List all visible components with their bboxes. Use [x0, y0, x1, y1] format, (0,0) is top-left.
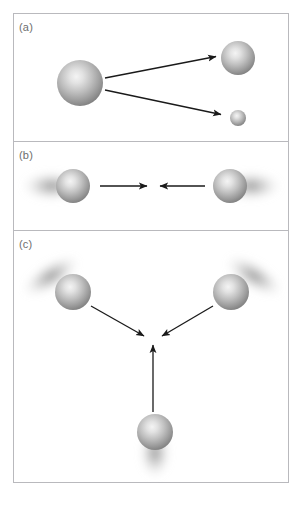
- arrow-to-medium-sphere: [105, 57, 216, 79]
- panel-b-content: [21, 169, 282, 203]
- sphere-left: [56, 169, 90, 203]
- panel-a-label: (a): [19, 22, 33, 33]
- figure-frame: [14, 14, 289, 483]
- panel-c-label: (c): [19, 239, 32, 250]
- medium-sphere-upper-right: [221, 41, 255, 75]
- small-sphere-lower-right: [230, 110, 246, 126]
- sphere-upper-right: [213, 274, 249, 310]
- figure-root: (a) (b) (c): [0, 0, 303, 507]
- sphere-bottom: [137, 414, 173, 450]
- panel-a-content: [57, 41, 255, 126]
- arrow-upper-left-to-center: [91, 306, 144, 336]
- sphere-upper-left: [55, 274, 91, 310]
- frame-border: [14, 14, 289, 483]
- panel-b-label: (b): [19, 150, 33, 161]
- figure-canvas: [0, 0, 303, 507]
- sphere-right: [213, 169, 247, 203]
- large-sphere-left: [57, 60, 103, 106]
- arrow-to-small-sphere: [105, 90, 221, 115]
- panel-c-content: [15, 246, 290, 479]
- arrow-upper-right-to-center: [162, 306, 213, 336]
